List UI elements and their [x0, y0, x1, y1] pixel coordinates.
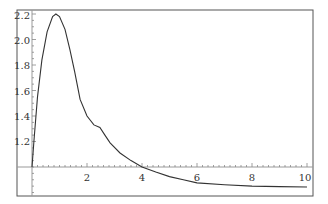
y-tick-label: 1.8 [14, 60, 30, 71]
plot-frame [17, 10, 313, 196]
x-tick-label: 4 [139, 172, 145, 183]
x-tick-label: 2 [84, 172, 90, 183]
x-tick-label: 6 [194, 172, 200, 183]
line-chart: 2 4 6 8 10 1.2 1.4 1.6 1.8 2.0 2.2 [0, 0, 328, 204]
y-tick-label: 2.2 [14, 10, 30, 21]
x-tick-label: 8 [249, 172, 255, 183]
x-tick-label: 10 [299, 172, 312, 183]
y-tick-label: 2.0 [14, 35, 30, 46]
y-tick-label: 1.6 [14, 86, 30, 97]
y-tick-label: 1.4 [14, 111, 30, 122]
y-tick-label: 1.2 [14, 136, 30, 147]
